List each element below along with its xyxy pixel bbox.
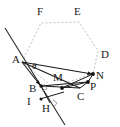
point-dot-m bbox=[60, 86, 64, 90]
point-label-d: D bbox=[101, 49, 109, 60]
point-label-n: N bbox=[96, 70, 104, 81]
point-dot-i bbox=[40, 98, 43, 101]
geometry-figure: A F E D N P C M B I H θ bbox=[0, 0, 120, 127]
point-label-b: B bbox=[29, 83, 36, 94]
angle-label-theta: θ bbox=[32, 61, 36, 72]
point-label-h: H bbox=[42, 103, 50, 114]
point-label-c: C bbox=[77, 91, 84, 102]
point-label-i: I bbox=[27, 96, 31, 107]
segment-b-h bbox=[41, 86, 50, 103]
point-label-a: A bbox=[12, 54, 20, 65]
point-label-e: E bbox=[74, 6, 81, 17]
segment-i-ray bbox=[40, 92, 64, 99]
point-dot-n bbox=[91, 72, 95, 76]
point-label-f: F bbox=[37, 6, 43, 17]
point-label-m: M bbox=[53, 72, 63, 83]
point-label-p: P bbox=[90, 81, 96, 92]
point-dot-b bbox=[39, 84, 42, 87]
